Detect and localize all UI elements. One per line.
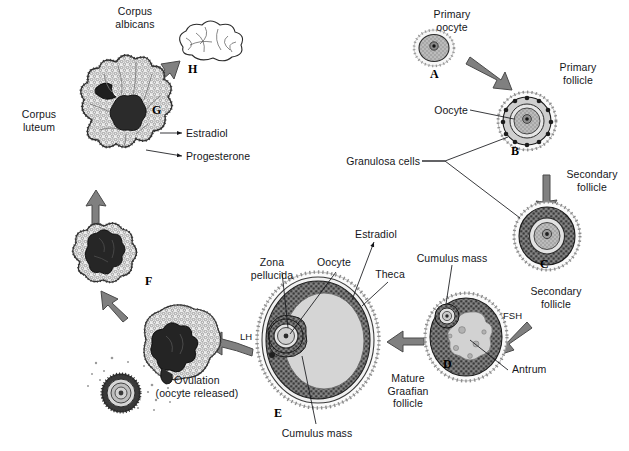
leader-estradiol-graafian xyxy=(352,242,374,300)
label-corpus-albicans: Corpus albicans xyxy=(115,5,154,30)
stage-letter-g: G xyxy=(152,104,161,116)
label-ovulation: Ovulation (oocyte released) xyxy=(156,374,239,399)
stage-letter-h: H xyxy=(188,63,197,75)
label-secondary-follicle-d: Secondary follicle xyxy=(530,285,581,310)
stage-letter-b: B xyxy=(511,145,519,157)
released-oocyte xyxy=(102,374,140,412)
ovarian-cycle-figure: Corpus albicans Corpus luteum Estradiol … xyxy=(0,0,629,451)
label-oocyte-e: Oocyte xyxy=(317,256,351,269)
stage-letter-c: C xyxy=(540,258,549,270)
primary-follicle-structure xyxy=(498,92,556,150)
label-zona-pellucida: Zona pellucida xyxy=(251,256,293,281)
mature-graafian-follicle-structure xyxy=(257,272,379,408)
label-granulosa-cells: Granulosa cells xyxy=(346,155,420,168)
label-cumulus-mass-bottom: Cumulus mass xyxy=(282,427,353,440)
stage-letter-f: F xyxy=(145,275,152,287)
leader-granulosa-to-c xyxy=(422,161,520,218)
stage-letter-d: D xyxy=(443,358,452,370)
antral-follicle-structure xyxy=(425,293,507,381)
label-antrum: Antrum xyxy=(512,363,546,376)
ovarian-cycle-illustration xyxy=(0,0,629,451)
label-primary-oocyte: Primary oocyte xyxy=(434,8,471,33)
corpus-luteum-structure xyxy=(81,55,172,147)
label-mature-graafian-follicle: Mature Graafian follicle xyxy=(387,372,428,410)
label-theca: Theca xyxy=(375,268,405,281)
stage-letter-a: A xyxy=(430,68,439,80)
label-corpus-luteum: Corpus luteum xyxy=(22,108,56,133)
arrow-a-to-b xyxy=(466,57,512,90)
label-lh: LH xyxy=(240,331,252,342)
leader-progesterone xyxy=(146,150,182,156)
label-fsh: FSH xyxy=(503,310,522,321)
label-progesterone: Progesterone xyxy=(186,150,250,163)
label-secondary-follicle-c: Secondary follicle xyxy=(566,168,617,193)
label-cumulus-mass-top: Cumulus mass xyxy=(417,252,488,265)
arrow-ovulation-to-f xyxy=(101,291,128,322)
leader-theca xyxy=(362,282,388,306)
corpus-albicans-structure xyxy=(180,21,243,61)
stage-letter-e: E xyxy=(274,407,282,419)
ruptured-follicle-structure xyxy=(73,223,137,282)
label-primary-follicle: Primary follicle xyxy=(560,61,597,86)
primary-oocyte-structure xyxy=(414,30,454,66)
label-oocyte-b: Oocyte xyxy=(434,104,468,117)
leader-granulosa-to-b xyxy=(422,137,508,161)
label-estradiol-graafian: Estradiol xyxy=(355,228,397,241)
arrow-d-to-e xyxy=(387,331,424,352)
label-estradiol-luteum: Estradiol xyxy=(186,127,228,140)
